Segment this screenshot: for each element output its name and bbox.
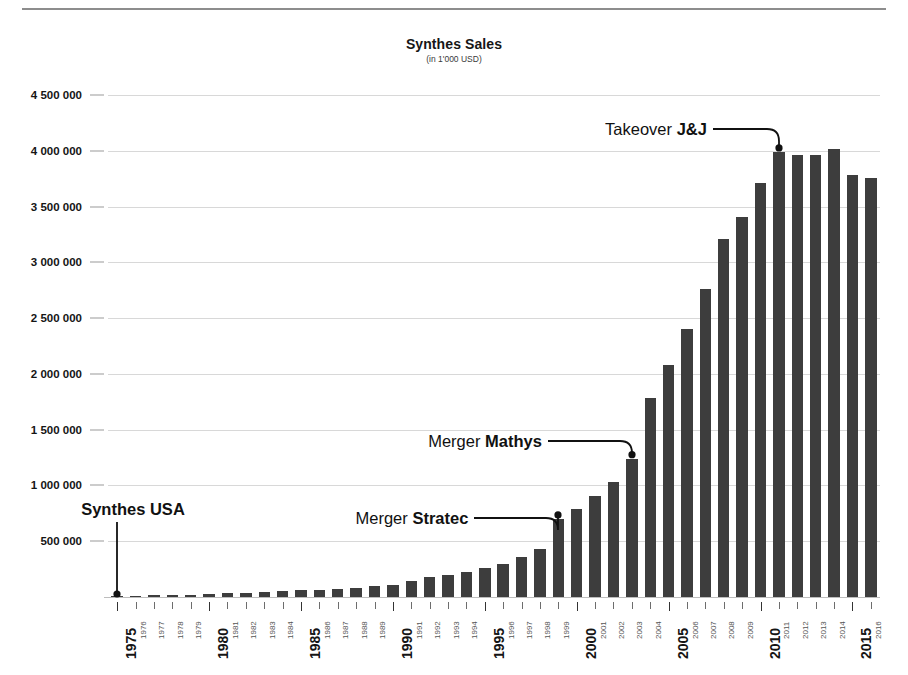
bar: [571, 509, 582, 597]
bar: [130, 596, 141, 597]
x-axis-tick: [797, 602, 798, 609]
annotation-synthes-usa: Synthes USA: [81, 500, 185, 519]
bar: [479, 568, 490, 597]
bar: [240, 593, 251, 597]
page-title: Synthes Sales: [0, 36, 908, 52]
y-axis-tick: [90, 150, 104, 151]
bar: [755, 183, 766, 597]
x-axis-tick: [632, 602, 633, 609]
bar: [167, 595, 178, 597]
bar: [111, 596, 122, 597]
x-axis-label: 1998: [543, 621, 552, 639]
bar: [332, 589, 343, 597]
bar: [681, 329, 692, 597]
y-axis-tick: [90, 262, 104, 263]
bar: [700, 289, 711, 597]
x-axis-label: 2006: [691, 621, 700, 639]
x-axis-tick: [816, 602, 817, 609]
y-axis-label: 500 000: [0, 535, 82, 547]
x-axis-label: 2013: [819, 621, 828, 639]
x-axis-label: 1984: [286, 621, 295, 639]
x-axis-tick: [613, 602, 614, 609]
x-axis-label: 2004: [654, 621, 663, 639]
bar: [424, 577, 435, 597]
x-axis-tick: [154, 602, 155, 609]
bar: [828, 149, 839, 597]
x-axis-tick: [466, 602, 467, 609]
bar: [534, 549, 545, 597]
x-axis-label: 1990: [399, 628, 415, 659]
x-axis-tick: [393, 602, 394, 611]
x-axis-label: 2002: [617, 621, 626, 639]
annotation-merger-mathys: Merger Mathys: [428, 432, 542, 451]
annotation-text-regular: Merger: [428, 432, 485, 450]
bar: [736, 217, 747, 597]
bar: [406, 581, 417, 597]
y-axis-label: 2 500 000: [0, 312, 82, 324]
bar: [185, 595, 196, 597]
annotation-merger-stratec: Merger Stratec: [356, 509, 469, 528]
bar: [222, 593, 233, 597]
x-axis-tick: [448, 602, 449, 609]
x-axis-label: 2000: [583, 628, 599, 659]
x-axis-label: 2016: [874, 621, 883, 639]
bar: [718, 239, 729, 597]
y-axis-tick: [90, 429, 104, 430]
x-axis-label: 2011: [782, 622, 791, 639]
x-axis-label: 1977: [157, 621, 166, 639]
bar: [277, 591, 288, 597]
gridline: [108, 95, 880, 96]
x-axis-tick: [577, 602, 578, 611]
bar: [295, 590, 306, 597]
bar: [259, 592, 270, 597]
x-axis-label: 1985: [307, 628, 323, 659]
bar: [792, 155, 803, 597]
bar: [663, 365, 674, 597]
y-axis-tick: [90, 485, 104, 486]
x-axis-label: 1993: [452, 621, 461, 639]
x-axis-tick: [558, 602, 559, 609]
axis-baseline: [104, 597, 880, 598]
x-axis-label: 2009: [746, 621, 755, 639]
bar: [810, 155, 821, 597]
y-axis-tick: [90, 206, 104, 207]
x-axis-tick: [283, 602, 284, 609]
x-axis-tick: [264, 602, 265, 609]
bar: [608, 482, 619, 597]
x-axis-label: 2001: [599, 621, 608, 639]
x-axis-label: 2003: [635, 621, 644, 639]
y-axis-label: 3 000 000: [0, 256, 82, 268]
x-axis-label: 1999: [562, 621, 571, 639]
x-axis-label: 2007: [709, 621, 718, 639]
x-axis-label: 1987: [341, 621, 350, 639]
bar: [553, 519, 564, 597]
x-axis-label: 1988: [360, 621, 369, 639]
annotation-text-bold: Stratec: [412, 509, 468, 527]
x-axis-label: 1979: [194, 621, 203, 639]
x-axis-tick: [191, 602, 192, 609]
bar: [865, 178, 876, 597]
bar: [203, 594, 214, 597]
x-axis-tick: [687, 602, 688, 609]
x-axis-tick: [136, 602, 137, 609]
x-axis-label: 1992: [433, 621, 442, 639]
bar: [589, 496, 600, 598]
x-axis-label: 1980: [215, 628, 231, 659]
x-axis-tick: [338, 602, 339, 609]
x-axis-tick: [522, 602, 523, 609]
bar: [387, 585, 398, 597]
annotation-text-bold: J&J: [677, 120, 707, 138]
x-axis-label: 1975: [123, 628, 139, 659]
bar: [461, 572, 472, 597]
x-axis-tick: [411, 602, 412, 609]
x-axis-label: 1997: [525, 621, 534, 639]
y-axis-label: 4 500 000: [0, 89, 82, 101]
x-axis-tick: [172, 602, 173, 609]
y-axis-label: 2 000 000: [0, 368, 82, 380]
chart-subtitle: (in 1'000 USD): [0, 54, 908, 64]
x-axis-tick: [356, 602, 357, 609]
x-axis-label: 1996: [507, 621, 516, 639]
x-axis-tick: [852, 602, 853, 611]
x-axis-tick: [779, 602, 780, 609]
x-axis-label: 1983: [268, 621, 277, 639]
